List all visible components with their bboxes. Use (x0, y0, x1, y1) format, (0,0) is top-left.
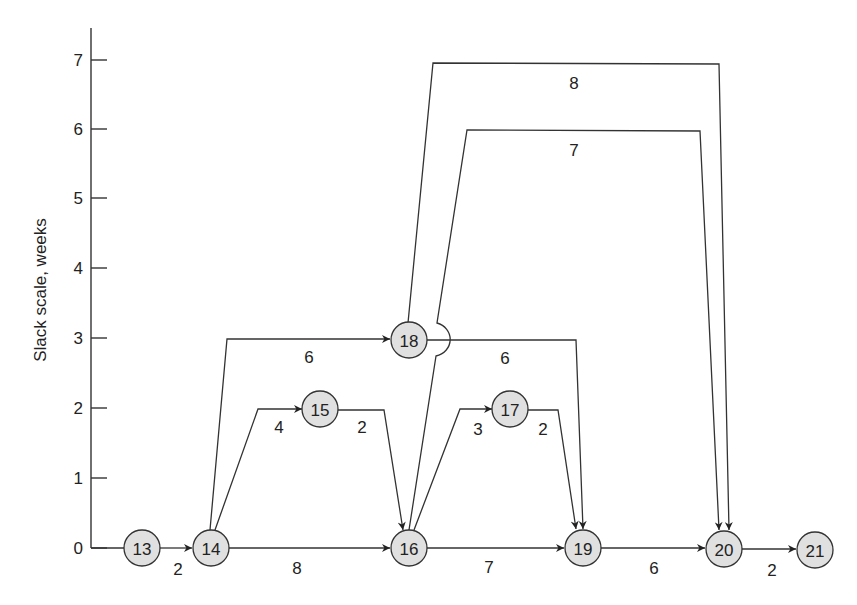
node-17: 17 (492, 391, 528, 427)
tick-label-6: 6 (74, 120, 83, 139)
edge-14-15 (215, 409, 302, 530)
label-16-20: 7 (569, 141, 578, 160)
edge-15-16 (338, 410, 403, 530)
svg-text:20: 20 (715, 541, 734, 560)
svg-text:17: 17 (501, 401, 520, 420)
tick-label-4: 4 (74, 259, 83, 278)
svg-text:14: 14 (202, 540, 221, 559)
tick-label-7: 7 (74, 51, 83, 70)
svg-text:13: 13 (133, 540, 152, 559)
node-14: 14 (193, 530, 229, 566)
edges (160, 63, 796, 549)
tick-label-5: 5 (74, 189, 83, 208)
label-15-16: 2 (357, 418, 366, 437)
label-18-20: 8 (569, 74, 578, 93)
svg-text:15: 15 (311, 401, 330, 420)
edge-18-20 (408, 63, 729, 530)
y-axis: 0 1 2 3 4 5 6 7 Slack scale, weeks (31, 28, 124, 558)
node-19: 19 (565, 530, 601, 566)
node-18: 18 (391, 322, 427, 358)
svg-text:19: 19 (574, 540, 593, 559)
svg-text:21: 21 (806, 542, 825, 561)
label-13-14: 2 (173, 560, 182, 579)
label-17-19: 2 (538, 420, 547, 439)
node-20: 20 (706, 531, 742, 567)
node-13: 13 (124, 530, 160, 566)
label-20-21: 2 (767, 561, 776, 580)
tick-label-2: 2 (74, 399, 83, 418)
y-axis-label: Slack scale, weeks (31, 218, 50, 362)
label-14-15: 4 (274, 418, 283, 437)
edge-labels: 2 8 4 2 6 7 3 2 6 7 8 6 2 (173, 74, 776, 580)
label-16-19: 7 (484, 558, 493, 577)
label-19-20: 6 (649, 559, 658, 578)
edge-17-19 (528, 410, 576, 529)
tick-label-1: 1 (74, 469, 83, 488)
edge-16-20 (409, 130, 719, 530)
tick-label-0: 0 (74, 539, 83, 558)
label-18-19: 6 (500, 349, 509, 368)
svg-text:16: 16 (400, 540, 419, 559)
label-14-16: 8 (292, 559, 301, 578)
slack-network-diagram: 0 1 2 3 4 5 6 7 Slack scale, weeks (0, 0, 857, 605)
label-14-18: 6 (304, 348, 313, 367)
node-16: 16 (391, 530, 427, 566)
node-21: 21 (797, 532, 833, 568)
node-15: 15 (302, 391, 338, 427)
svg-text:18: 18 (400, 332, 419, 351)
label-16-17: 3 (473, 420, 482, 439)
tick-label-3: 3 (74, 329, 83, 348)
